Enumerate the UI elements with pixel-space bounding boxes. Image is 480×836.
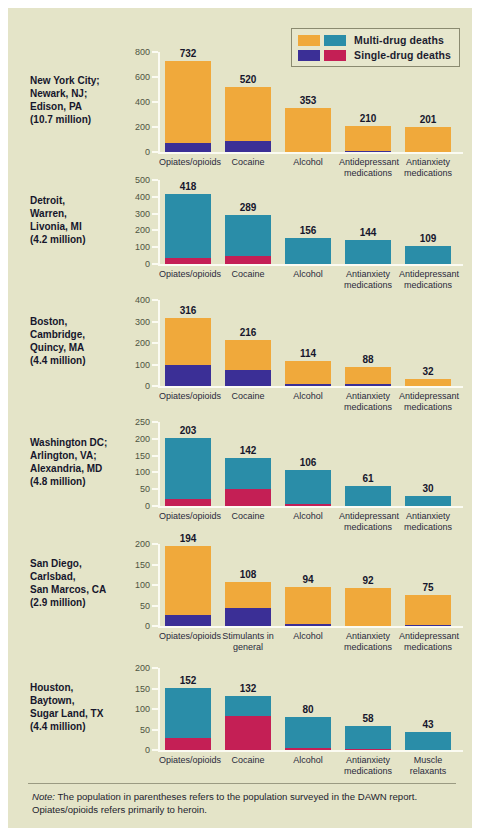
- bar-segment-single-drug: [345, 151, 391, 152]
- x-axis-line: [158, 152, 463, 154]
- city-label-line: Carlsbad,: [30, 570, 126, 583]
- bar-stack: [225, 582, 271, 626]
- bar-stack: [285, 587, 331, 626]
- note-prefix: Note:: [32, 791, 55, 802]
- bar-segment-single-drug: [165, 615, 211, 626]
- panel-city-label: Houston,Baytown,Sugar Land, TX(4.4 milli…: [30, 681, 126, 734]
- y-axis-tick-label: 50: [124, 484, 150, 494]
- y-axis-tick-label: 0: [124, 381, 150, 391]
- legend-label-multi-drug: Multi-drug deaths: [354, 34, 444, 46]
- x-axis-category-label: Antianxiety medications: [339, 755, 397, 776]
- chart-panel: Boston,Cambridge,Quincy, MA(4.4 million)…: [8, 300, 472, 420]
- note-line-1: The population in parentheses refers to …: [55, 791, 417, 802]
- x-axis-category-label: Cocaine: [219, 511, 277, 522]
- y-axis-tick: [152, 229, 158, 231]
- x-axis-category-label: Opiates/opioids: [159, 157, 217, 168]
- y-axis-tick: [152, 263, 158, 265]
- bar-value-label: 106: [275, 457, 341, 468]
- bar-stack: [165, 438, 211, 506]
- x-axis-category-label: Antianxiety medications: [399, 157, 457, 178]
- y-axis-tick-label: 150: [124, 451, 150, 461]
- x-axis-category-label: Opiates/opioids: [159, 755, 217, 766]
- y-axis-tick: [152, 76, 158, 78]
- y-axis-tick: [152, 299, 158, 301]
- bar-value-label: 156: [275, 225, 341, 236]
- y-axis-tick: [152, 505, 158, 507]
- chart-panel: San Diego,Carlsbad,San Marcos, CA(2.9 mi…: [8, 544, 472, 660]
- y-axis-tick: [152, 564, 158, 566]
- bar-value-label: 92: [335, 575, 401, 586]
- bar-value-label: 418: [155, 181, 221, 192]
- city-label-line: Cambridge,: [30, 328, 126, 341]
- panel-plot-area: 0100200300400316Opiates/opioids216Cocain…: [128, 300, 463, 420]
- bar-stack: [165, 194, 211, 264]
- city-label-line: Newark, NJ;: [30, 87, 126, 100]
- y-axis-tick-label: 400: [124, 97, 150, 107]
- y-axis-tick-label: 250: [124, 417, 150, 427]
- bar-value-label: 75: [395, 582, 461, 593]
- y-axis-tick: [152, 342, 158, 344]
- bar-value-label: 32: [395, 366, 461, 377]
- figure-canvas: Multi-drug deaths Single-drug deaths New…: [8, 8, 472, 828]
- y-axis-tick-label: 0: [124, 621, 150, 631]
- bar-stack: [225, 340, 271, 386]
- bar-value-label: 109: [395, 233, 461, 244]
- bar-value-label: 353: [275, 95, 341, 106]
- y-axis-tick-label: 100: [124, 580, 150, 590]
- x-axis-category-label: Stimulants in general: [219, 631, 277, 652]
- bar-stack: [165, 61, 211, 153]
- bar-stack: [405, 732, 451, 750]
- panel-city-label: Detroit,Warren,Livonia, MI(4.2 million): [30, 194, 126, 247]
- bar-segment-single-drug: [225, 489, 271, 506]
- x-axis-category-label: Muscle relaxants: [399, 755, 457, 776]
- y-axis-tick: [152, 364, 158, 366]
- y-axis-tick-label: 100: [124, 704, 150, 714]
- bar-value-label: 732: [155, 48, 221, 59]
- y-axis-tick: [152, 708, 158, 710]
- bar-stack: [345, 240, 391, 264]
- city-label-line: Detroit,: [30, 194, 126, 207]
- y-axis-tick-label: 0: [124, 259, 150, 269]
- city-label-line: Baytown,: [30, 694, 126, 707]
- chart-panel: New York City;Newark, NJ;Edison, PA(10.7…: [8, 52, 472, 186]
- y-axis-tick: [152, 625, 158, 627]
- bar-value-label: 43: [395, 719, 461, 730]
- bar-stack: [225, 87, 271, 152]
- y-axis-tick-label: 300: [124, 209, 150, 219]
- bar-value-label: 210: [335, 113, 401, 124]
- y-axis-tick-label: 500: [124, 175, 150, 185]
- bar-stack: [405, 496, 451, 506]
- bar-segment-single-drug: [285, 748, 331, 750]
- y-axis-tick-label: 100: [124, 360, 150, 370]
- panel-city-label: Washington DC;Arlington, VA;Alexandria, …: [30, 436, 126, 489]
- panel-city-label: Boston,Cambridge,Quincy, MA(4.4 million): [30, 315, 126, 368]
- bar-stack: [345, 486, 391, 506]
- x-axis-category-label: Opiates/opioids: [159, 511, 217, 522]
- y-axis-line: [158, 52, 160, 154]
- bar-stack: [285, 238, 331, 264]
- y-axis-tick: [152, 438, 158, 440]
- bar-stack: [345, 726, 391, 750]
- x-axis-category-label: Cocaine: [219, 391, 277, 402]
- panel-city-label: San Diego,Carlsbad,San Marcos, CA(2.9 mi…: [30, 557, 126, 610]
- y-axis-tick-label: 0: [124, 745, 150, 755]
- x-axis-category-label: Alcohol: [279, 157, 337, 168]
- y-axis-tick: [152, 246, 158, 248]
- city-label-line: San Diego,: [30, 557, 126, 570]
- city-label-line: (4.4 million): [30, 720, 126, 733]
- y-axis-tick: [152, 488, 158, 490]
- bar-value-label: 58: [335, 713, 401, 724]
- y-axis-tick-label: 100: [124, 242, 150, 252]
- y-axis-tick-label: 0: [124, 501, 150, 511]
- panel-plot-area: 050100150200152Opiates/opioids132Cocaine…: [128, 668, 463, 784]
- bar-segment-single-drug: [225, 608, 271, 626]
- bar-segment-single-drug: [225, 256, 271, 264]
- x-axis-line: [158, 626, 463, 628]
- y-axis-tick: [152, 729, 158, 731]
- bar-segment-single-drug: [285, 384, 331, 386]
- chart-panel: Detroit,Warren,Livonia, MI(4.2 million)0…: [8, 180, 472, 298]
- y-axis-tick-label: 400: [124, 192, 150, 202]
- y-axis-line: [158, 544, 160, 628]
- y-axis-tick: [152, 126, 158, 128]
- bar-stack: [405, 246, 451, 264]
